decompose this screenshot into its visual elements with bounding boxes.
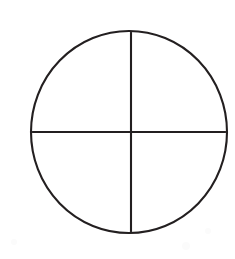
- quartered-circle-diagram: [0, 0, 235, 259]
- scan-speck: [205, 228, 211, 234]
- scan-speck: [11, 239, 17, 245]
- background-plate: [0, 0, 235, 259]
- scan-speck: [182, 242, 190, 250]
- figure-canvas: [0, 0, 235, 259]
